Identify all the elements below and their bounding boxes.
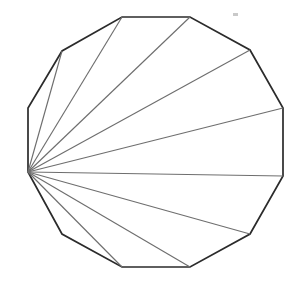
dodecagon-diagram: [0, 0, 298, 285]
figure-canvas: [0, 0, 298, 285]
dodecagon-outline: [28, 17, 283, 267]
artifact-speck-group: [233, 13, 238, 16]
speck-artifact: [233, 13, 238, 16]
